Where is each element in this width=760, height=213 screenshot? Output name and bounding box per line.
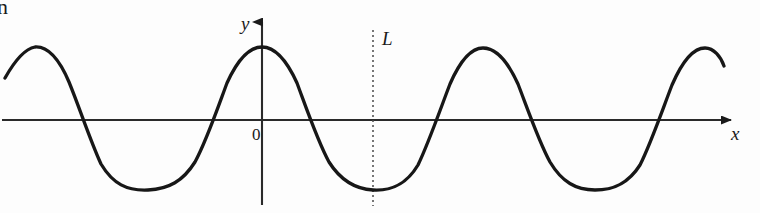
marker-line-label-L: L <box>382 29 393 48</box>
graph-canvas <box>0 0 760 213</box>
wave-graph-figure: y x L 0 n <box>0 0 760 213</box>
cosine-curve <box>5 47 724 190</box>
origin-label: 0 <box>252 126 261 143</box>
x-axis-label: x <box>731 124 739 143</box>
cropped-text-fragment: n <box>0 0 13 22</box>
y-axis-label: y <box>241 14 249 33</box>
